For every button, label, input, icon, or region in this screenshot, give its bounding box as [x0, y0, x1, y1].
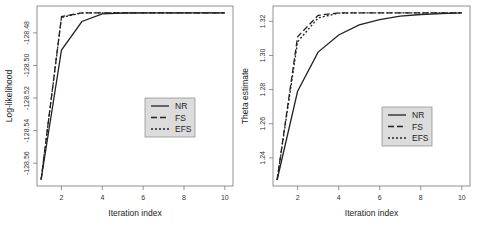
plot-frame — [273, 6, 470, 186]
legend-label-fs: FS — [175, 113, 186, 123]
y-tick-label: -128.48 — [23, 21, 30, 45]
figure: 246810-128.48-128.50-128.52-128.54-128.5… — [0, 0, 480, 226]
y-tick-label: 1.26 — [259, 117, 266, 131]
y-tick-label: -128.52 — [23, 86, 30, 110]
legend: NRFSEFS — [145, 98, 195, 137]
y-tick-label: 1.32 — [259, 14, 266, 28]
x-tick-label: 10 — [221, 194, 229, 201]
series-line-nr — [277, 13, 462, 180]
y-tick-label: -128.56 — [23, 151, 30, 175]
legend-label-nr: NR — [175, 101, 187, 111]
series-line-efs — [277, 13, 462, 180]
series-line-nr — [41, 13, 225, 180]
x-axis-title: Iteration index — [108, 208, 162, 218]
x-tick-label: 4 — [100, 194, 104, 201]
series-line-fs — [277, 13, 462, 180]
x-tick-label: 4 — [337, 194, 341, 201]
legend-label-efs: EFS — [412, 133, 429, 143]
chart-panel-1: 246810-128.48-128.50-128.52-128.54-128.5… — [4, 6, 233, 218]
legend-label-nr: NR — [412, 110, 424, 120]
legend: NRFSEFS — [382, 107, 432, 146]
series-line-fs — [41, 13, 225, 180]
y-axis-title: Log-likelihood — [4, 70, 14, 123]
y-tick-label: -128.50 — [23, 53, 30, 77]
x-tick-label: 6 — [141, 194, 145, 201]
legend-label-efs: EFS — [175, 124, 192, 134]
series-line-efs — [41, 13, 225, 180]
x-tick-label: 6 — [378, 194, 382, 201]
chart-panel-2: 2468101.321.301.281.261.24Iteration inde… — [240, 6, 470, 218]
legend-label-fs: FS — [412, 122, 423, 132]
y-tick-label: 1.24 — [259, 151, 266, 165]
y-tick-label: 1.28 — [259, 83, 266, 97]
plot-frame — [37, 6, 233, 186]
x-tick-label: 8 — [419, 194, 423, 201]
y-axis-title: Theta estimate — [240, 68, 250, 124]
y-tick-label: -128.54 — [23, 119, 30, 143]
x-tick-label: 2 — [60, 194, 64, 201]
y-tick-label: 1.30 — [259, 49, 266, 63]
x-tick-label: 2 — [296, 194, 300, 201]
x-axis-title: Iteration index — [345, 208, 399, 218]
x-tick-label: 10 — [458, 194, 466, 201]
x-tick-label: 8 — [182, 194, 186, 201]
